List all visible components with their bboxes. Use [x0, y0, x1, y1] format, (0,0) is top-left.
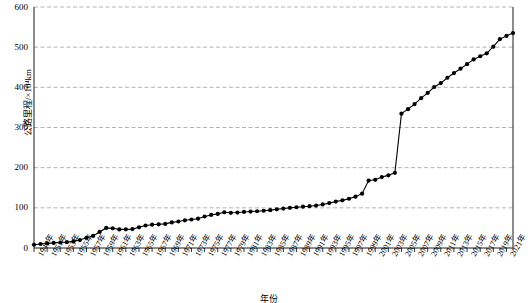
data-point: [150, 223, 154, 227]
data-point: [104, 226, 108, 230]
data-point: [478, 54, 482, 58]
data-point: [472, 57, 476, 61]
data-point: [327, 201, 331, 205]
data-point: [294, 205, 298, 209]
data-point: [183, 218, 187, 222]
data-point: [130, 227, 134, 231]
data-point: [498, 37, 502, 41]
data-point: [137, 225, 141, 229]
data-point: [189, 217, 193, 221]
data-point: [288, 206, 292, 210]
data-point: [399, 112, 403, 116]
data-point: [485, 51, 489, 55]
gridlines: [34, 7, 513, 208]
data-point: [452, 71, 456, 75]
data-point: [301, 205, 305, 209]
data-point: [511, 31, 515, 35]
data-point: [124, 227, 128, 231]
data-point: [314, 203, 318, 207]
x-axis-title: 年份: [260, 292, 278, 303]
data-point: [347, 197, 351, 201]
data-point: [275, 207, 279, 211]
data-point: [209, 213, 213, 217]
data-point: [117, 227, 121, 231]
data-point: [111, 226, 115, 230]
data-point: [242, 210, 246, 214]
data-point: [439, 81, 443, 85]
data-point: [235, 210, 239, 214]
data-point: [170, 220, 174, 224]
data-markers: [32, 31, 515, 247]
data-point: [386, 173, 390, 177]
data-point: [157, 222, 161, 226]
data-point: [360, 192, 364, 196]
data-point: [504, 34, 508, 38]
data-point: [196, 217, 200, 221]
data-point: [216, 212, 220, 216]
data-point: [367, 178, 371, 182]
data-point: [406, 107, 410, 111]
data-line: [34, 33, 513, 245]
data-point: [412, 102, 416, 106]
data-point: [229, 211, 233, 215]
data-point: [380, 175, 384, 179]
data-point: [445, 76, 449, 80]
data-point: [334, 199, 338, 203]
data-point: [393, 171, 397, 175]
data-point: [176, 219, 180, 223]
data-point: [340, 198, 344, 202]
data-point: [419, 96, 423, 100]
data-point: [255, 209, 259, 213]
data-point: [32, 243, 36, 247]
data-point: [307, 204, 311, 208]
data-point: [203, 214, 207, 218]
data-point: [248, 209, 252, 213]
data-point: [268, 208, 272, 212]
data-point: [163, 222, 167, 226]
data-point: [426, 91, 430, 95]
data-point: [432, 85, 436, 89]
data-point: [281, 206, 285, 210]
data-point: [465, 62, 469, 66]
data-point: [222, 210, 226, 214]
data-point: [143, 223, 147, 227]
data-point: [353, 195, 357, 199]
data-point: [491, 45, 495, 49]
data-point: [458, 67, 462, 71]
data-point: [373, 178, 377, 182]
data-point: [262, 209, 266, 213]
data-point: [321, 202, 325, 206]
